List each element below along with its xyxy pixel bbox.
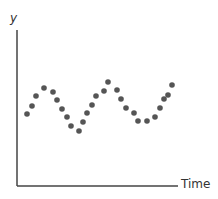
data-point xyxy=(161,96,167,102)
data-point xyxy=(114,87,120,93)
data-point xyxy=(33,93,39,99)
data-point xyxy=(144,118,150,124)
data-point xyxy=(169,82,175,88)
x-axis-label: Time xyxy=(181,178,210,190)
chart-canvas xyxy=(0,0,218,199)
data-point xyxy=(41,85,47,91)
data-point xyxy=(101,88,107,94)
data-point xyxy=(152,114,158,120)
data-point xyxy=(131,110,137,116)
data-point xyxy=(80,119,86,125)
data-point xyxy=(76,128,82,134)
data-point xyxy=(93,93,99,99)
data-point xyxy=(135,118,141,124)
data-point xyxy=(157,105,163,111)
data-point xyxy=(165,92,171,98)
data-point xyxy=(29,103,35,109)
data-point xyxy=(84,110,90,116)
data-point xyxy=(54,97,60,103)
data-point xyxy=(68,123,74,129)
data-points xyxy=(24,79,175,134)
data-point xyxy=(105,79,111,85)
y-axis-label: y xyxy=(10,12,17,24)
data-point xyxy=(64,114,70,120)
data-point xyxy=(123,105,129,111)
data-point xyxy=(24,111,30,117)
data-point xyxy=(118,96,124,102)
data-point xyxy=(59,106,65,112)
data-point xyxy=(89,102,95,108)
data-point xyxy=(50,89,56,95)
